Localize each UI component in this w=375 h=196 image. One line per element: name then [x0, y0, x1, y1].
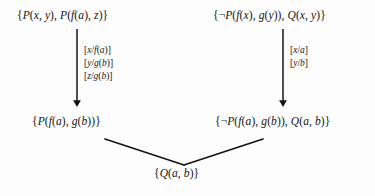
clause-resolvent: {Q(a, b)} — [154, 167, 199, 179]
clause-mid-right: {¬P(f(a), g(b)), Q(a, b)} — [215, 115, 330, 127]
clause-top-right: {¬P(f(x), g(y)), Q(x, y)} — [213, 9, 326, 21]
resolution-line-right — [184, 139, 263, 165]
substitution-item: [y/g(b)] — [84, 57, 113, 70]
resolution-line-left — [105, 139, 184, 165]
clause-mid-left: {P(f(a), g(b))} — [32, 115, 101, 127]
substitution-item: [x/f(a)] — [84, 44, 113, 57]
substitution-item: [z/g(b)] — [84, 70, 113, 83]
substitution-list-right: [x/a] [y/b] — [290, 44, 308, 70]
substitution-item: [x/a] — [290, 44, 308, 57]
substitution-list-left: [x/f(a)] [y/g(b)] [z/g(b)] — [84, 44, 113, 84]
substitution-item: [y/b] — [290, 57, 308, 70]
resolution-proof-diagram: {P(x, y), P(f(a), z)} {¬P(f(x), g(y)), Q… — [0, 0, 375, 196]
clause-top-left: {P(x, y), P(f(a), z)} — [17, 9, 108, 21]
